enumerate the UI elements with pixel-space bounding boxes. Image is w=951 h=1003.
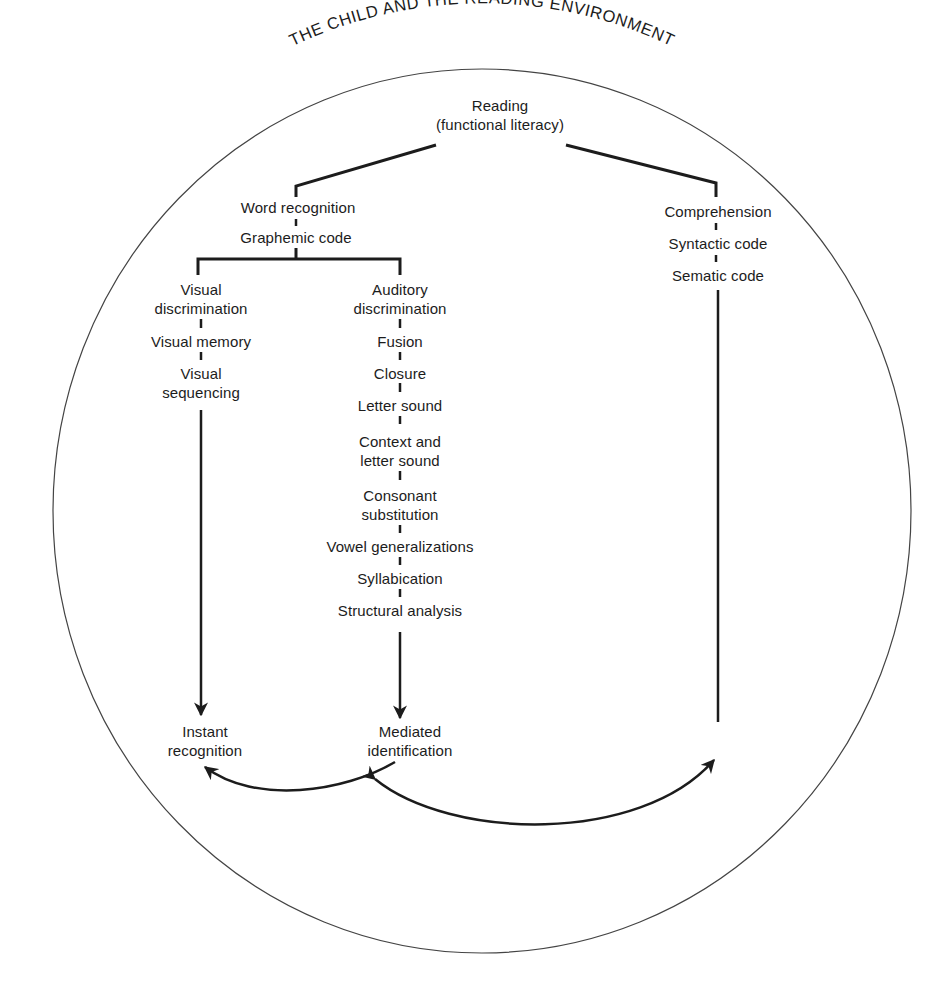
arrow-mediated-to-instant xyxy=(205,762,395,790)
diagram-lines: THE CHILD AND THE READING ENVIRONMENT xyxy=(0,0,951,1003)
node-letter-sound: Letter sound xyxy=(358,397,443,416)
node-closure: Closure xyxy=(374,365,426,384)
node-word-recognition: Word recognition xyxy=(241,199,356,218)
node-reading-subtitle: (functional literacy) xyxy=(436,116,564,135)
node-comprehension: Comprehension xyxy=(664,203,771,222)
node-sematic-code: Sematic code xyxy=(672,267,764,286)
connector-visual-auditory-split xyxy=(198,259,400,275)
node-graphemic-code: Graphemic code xyxy=(240,229,351,248)
node-fusion: Fusion xyxy=(377,333,423,352)
node-syntactic-code: Syntactic code xyxy=(669,235,768,254)
node-reading: Reading (functional literacy) xyxy=(436,97,564,134)
node-visual-discrimination: Visual discrimination xyxy=(154,281,247,318)
node-instant-recognition: Instant recognition xyxy=(168,723,242,760)
connector-root-comprehension xyxy=(566,145,716,197)
node-visual-memory: Visual memory xyxy=(151,333,251,352)
node-context-letter-sound: Context and letter sound xyxy=(359,433,441,470)
node-auditory-discrimination: Auditory discrimination xyxy=(353,281,446,318)
diagram-title: THE CHILD AND THE READING ENVIRONMENT xyxy=(286,0,678,49)
node-visual-sequencing: Visual sequencing xyxy=(162,365,240,402)
node-mediated-identification: Mediated identification xyxy=(368,723,453,760)
reading-environment-diagram: THE CHILD AND THE READING ENVIRONMENT xyxy=(0,0,951,1003)
node-syllabication: Syllabication xyxy=(357,570,443,589)
arrow-mediated-comprehension xyxy=(375,760,714,824)
node-vowel-generalizations: Vowel generalizations xyxy=(326,538,473,557)
node-reading-title: Reading xyxy=(436,97,564,116)
node-structural-analysis: Structural analysis xyxy=(338,602,462,621)
connector-root-word-recognition xyxy=(296,145,436,197)
node-consonant-substitution: Consonant substitution xyxy=(361,487,438,524)
